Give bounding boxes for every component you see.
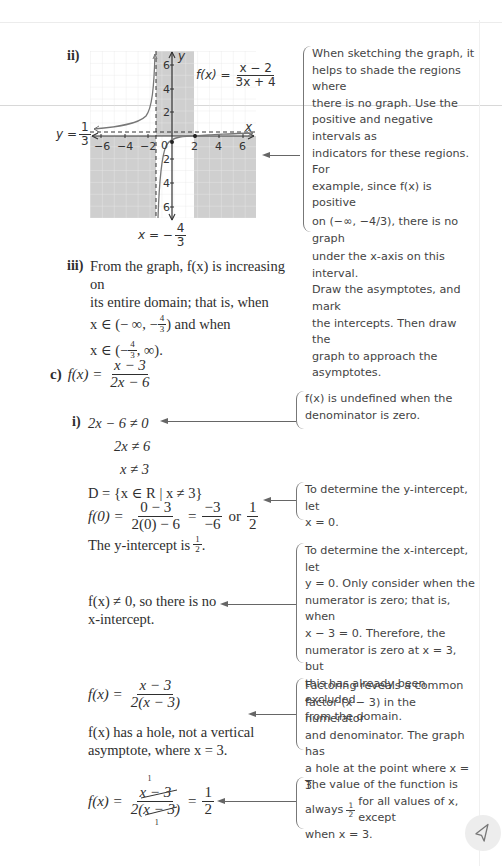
svg-text:−6: −6 bbox=[94, 140, 110, 153]
fraction-num: 0 − 3 bbox=[138, 500, 173, 517]
cancel-fraction: x − 3 1 2(x − 3) 1 bbox=[129, 785, 182, 818]
note-undefined: f(x) is undefined when the denominator i… bbox=[296, 391, 476, 429]
interval-fraction: 4 3 bbox=[158, 314, 167, 334]
f0-lhs: f(0) = bbox=[88, 508, 124, 525]
fraction-den: 3 bbox=[158, 325, 167, 334]
svg-text:4: 4 bbox=[163, 83, 170, 96]
fraction-num: x − 3 1 bbox=[137, 785, 173, 802]
fraction-num: x − 3 bbox=[137, 678, 173, 695]
note-line: graph to approach the bbox=[312, 349, 478, 366]
h-asymptote-label: y = 1 3 bbox=[56, 121, 91, 147]
fraction-den: 2(0) − 6 bbox=[130, 517, 182, 533]
fraction-den: 2(x − 3) bbox=[129, 695, 182, 711]
y-intercept-fraction: 1 2 bbox=[193, 535, 202, 555]
part-c-function: c) f(x) = x − 3 2x − 6 bbox=[50, 358, 152, 391]
part-iii-line: its entire domain; that is, when bbox=[90, 293, 290, 311]
fraction-num: −3 bbox=[202, 500, 222, 517]
svg-text:0: 0 bbox=[161, 139, 168, 152]
part-c-i-label: i) bbox=[72, 414, 81, 430]
hole-line: asymptote, where x = 3. bbox=[88, 741, 268, 759]
fraction-den: 2 bbox=[247, 517, 259, 533]
arrow-line bbox=[254, 714, 296, 715]
function-lhs: f(x) = bbox=[196, 68, 231, 82]
fraction-den: −6 bbox=[202, 517, 222, 533]
note-value: The value of the function is always 1 2 … bbox=[296, 777, 476, 829]
note-text: for all values of x, except bbox=[358, 794, 476, 827]
strike-icon bbox=[143, 804, 183, 818]
note-line: asymptotes. bbox=[312, 365, 478, 382]
svg-text:4: 4 bbox=[163, 177, 170, 190]
fraction-num: 4 bbox=[128, 340, 137, 350]
cancel-mark: 1 bbox=[147, 775, 151, 783]
note-line: denominator is zero. bbox=[305, 408, 476, 425]
note-line: example, since f(x) is positive bbox=[312, 179, 478, 212]
y-intercept-text: The y-intercept is bbox=[88, 536, 190, 554]
function-fraction: x − 3 2x − 6 bbox=[108, 358, 151, 391]
svg-text:4: 4 bbox=[215, 140, 222, 153]
f0-equation: f(0) = 0 − 3 2(0) − 6 = −3 −6 or 1 2 bbox=[88, 492, 258, 540]
arrow-line bbox=[269, 500, 296, 501]
hole-line: f(x) has a hole, not a vertical bbox=[88, 723, 268, 741]
part-iii-interval-1: x ∈ (− ∞, − 4 3 ) and when bbox=[90, 311, 290, 337]
svg-text:2: 2 bbox=[191, 140, 198, 153]
function-numerator: x − 2 bbox=[237, 62, 273, 76]
note-line: and denominator. The graph has bbox=[305, 728, 476, 761]
svg-text:2: 2 bbox=[163, 106, 170, 119]
fraction-den: 2 bbox=[202, 802, 214, 818]
equals: = bbox=[188, 508, 196, 525]
svg-text:−2: −2 bbox=[140, 140, 156, 153]
svg-text:2: 2 bbox=[163, 153, 170, 166]
note-line: When sketching the graph, it bbox=[312, 46, 478, 63]
fraction-den: 2 bbox=[193, 545, 202, 554]
interval-prefix: x ∈ (− ∞, − bbox=[90, 315, 158, 333]
v-asymptote-fraction: 4 3 bbox=[175, 222, 187, 248]
cancel-mark: 1 bbox=[155, 819, 159, 827]
note-x-intercept: To determine the x-intercept, let y = 0.… bbox=[296, 543, 476, 663]
f0-fraction-2: −3 −6 bbox=[202, 500, 222, 533]
interval-suffix: ) and when bbox=[166, 315, 230, 333]
note-line: there is no graph. Use the bbox=[312, 96, 478, 113]
h-asymptote-fraction: 1 3 bbox=[79, 121, 91, 147]
cursor-arrow-icon bbox=[473, 823, 493, 843]
part-iii-label: iii) bbox=[67, 258, 83, 274]
or-text: or bbox=[228, 508, 241, 525]
note-line: numerator is zero; that is, when bbox=[305, 593, 476, 626]
result-fraction: 1 2 bbox=[202, 785, 214, 818]
note-line: on (−∞, −4/3), there is no graph bbox=[312, 214, 478, 247]
top-rule bbox=[0, 22, 502, 23]
note-text: always bbox=[305, 802, 343, 819]
note-line: indicators for these regions. For bbox=[312, 146, 478, 179]
part-iii-text: From the graph, f(x) is increasing on it… bbox=[90, 257, 290, 363]
arrow-line bbox=[226, 604, 296, 605]
note-line: when x = 3. bbox=[305, 827, 476, 844]
part-ii-label: ii) bbox=[67, 48, 79, 64]
svg-text:6: 6 bbox=[163, 59, 170, 72]
v-asymptote-prefix: x = − bbox=[138, 228, 173, 242]
svg-text:y: y bbox=[177, 49, 186, 63]
fraction-num: 1 bbox=[202, 785, 214, 802]
note-line: To determine the y-intercept, let bbox=[305, 482, 476, 515]
hole-statement: f(x) has a hole, not a vertical asymptot… bbox=[88, 723, 268, 759]
note-line: helps to shade the regions where bbox=[312, 63, 478, 96]
note-factoring: Factoring reveals a common factor (x − 3… bbox=[296, 678, 476, 750]
note-line: f(x) is undefined when the bbox=[305, 391, 476, 408]
no-x-intercept-line: x-intercept. bbox=[88, 610, 228, 628]
step-x-not-3: x ≠ 3 bbox=[120, 460, 149, 478]
cursor-mode-button[interactable] bbox=[465, 815, 501, 851]
step-denominator-not-zero: 2x − 6 ≠ 0 bbox=[88, 414, 148, 432]
fraction-num: 4 bbox=[158, 314, 167, 324]
y-intercept-statement: The y-intercept is 1 2 . bbox=[88, 535, 205, 555]
h-asymptote-prefix: y = bbox=[56, 127, 77, 141]
f0-fraction-3: 1 2 bbox=[247, 500, 259, 533]
page-margin-line bbox=[479, 20, 480, 866]
v-asymptote-num: 4 bbox=[175, 222, 187, 236]
note-line: factor (x − 3) in the numerator bbox=[305, 695, 476, 728]
f0-fraction-1: 0 − 3 2(0) − 6 bbox=[130, 500, 182, 533]
part-iii-line: From the graph, f(x) is increasing on bbox=[90, 257, 290, 293]
v-asymptote-label: x = − 4 3 bbox=[138, 222, 186, 248]
step-2x-not-6: 2x ≠ 6 bbox=[114, 437, 150, 455]
note-line: under the x-axis on this interval. bbox=[312, 249, 478, 282]
arrow-line bbox=[166, 421, 296, 422]
note-sketching: When sketching the graph, it helps to sh… bbox=[303, 46, 478, 232]
cancel-equation: f(x) = x − 3 1 2(x − 3) 1 = 1 2 bbox=[88, 785, 214, 818]
